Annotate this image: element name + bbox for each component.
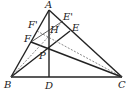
label-h: H [49,24,59,35]
label-p: P [38,50,46,61]
label-b: B [3,79,11,90]
label-e-prime: E' [62,11,73,22]
label-a: A [44,0,52,10]
label-d: D [44,80,53,91]
label-e: E [71,22,80,33]
label-f-prime: F' [27,19,38,30]
label-c: C [118,79,126,90]
label-f: F [23,33,32,44]
geometry-diagram: A B C D P E F E' F' H [0,0,130,100]
